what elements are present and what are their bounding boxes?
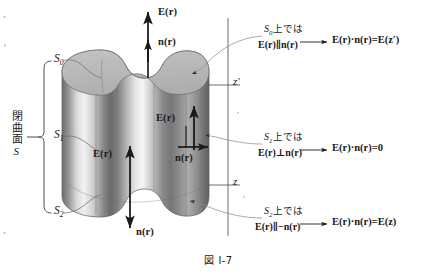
annotation-s0-condition: S0上では: [264, 24, 303, 37]
annotation-s2-result: E(r)·n(r)=E(z): [332, 216, 396, 227]
label-s1: S1: [54, 128, 64, 143]
scan-speck: [237, 112, 239, 114]
figure-caption: 図 I-7: [0, 252, 437, 267]
annotation-s0-result: E(r)·n(r)=E(z′): [332, 34, 399, 45]
scan-speck: [4, 44, 6, 47]
closed-surface-symbol: S: [10, 145, 22, 158]
scan-speck: [3, 232, 6, 234]
annotation-s1-surface: S1: [264, 131, 273, 142]
annotation-s1-suffix: 上では: [273, 131, 303, 142]
figure-gaussian-pillbox: 閉曲面S S0 S1 S2 E(r) n(r) E(r) n(r) E(r) n…: [0, 0, 437, 274]
annotation-s2-suffix: 上では: [273, 205, 303, 216]
closed-surface-brace: [38, 61, 51, 213]
label-s0: S0: [54, 52, 64, 67]
annotation-s0-suffix: 上では: [273, 23, 303, 34]
label-top-normal-n: n(r): [158, 36, 176, 47]
annotation-s0-surface: S0: [264, 23, 273, 34]
annotation-s2-relation: E(r)∥−n(r): [255, 222, 300, 233]
scan-speck: [3, 16, 6, 18]
annotation-s2-surface: S2: [264, 205, 273, 216]
annotation-s1-relation: E(r)⊥n(r): [258, 148, 302, 159]
label-mid-field-E: E(r): [93, 148, 112, 159]
leader-annotation-s1: [205, 135, 262, 144]
label-s2: S2: [54, 204, 64, 219]
label-z-lower: z: [233, 176, 237, 188]
annotation-s1-condition: S1上では: [264, 132, 303, 145]
label-side-normal-n: n(r): [175, 152, 193, 163]
label-top-field-E: E(r): [158, 6, 177, 17]
closed-surface-label: 閉曲面S: [10, 110, 22, 157]
label-z-upper: z′: [233, 76, 240, 88]
annotation-s2-condition: S2上では: [264, 206, 303, 219]
scan-speck: [243, 196, 245, 198]
label-side-field-E: E(r): [156, 112, 175, 123]
annotation-s1-result: E(r)·n(r)=0: [332, 142, 383, 153]
closed-surface-text: 閉曲面: [10, 110, 23, 145]
label-bottom-normal-n: n(r): [136, 226, 154, 237]
annotation-s0-relation: E(r)∥n(r): [258, 40, 298, 51]
